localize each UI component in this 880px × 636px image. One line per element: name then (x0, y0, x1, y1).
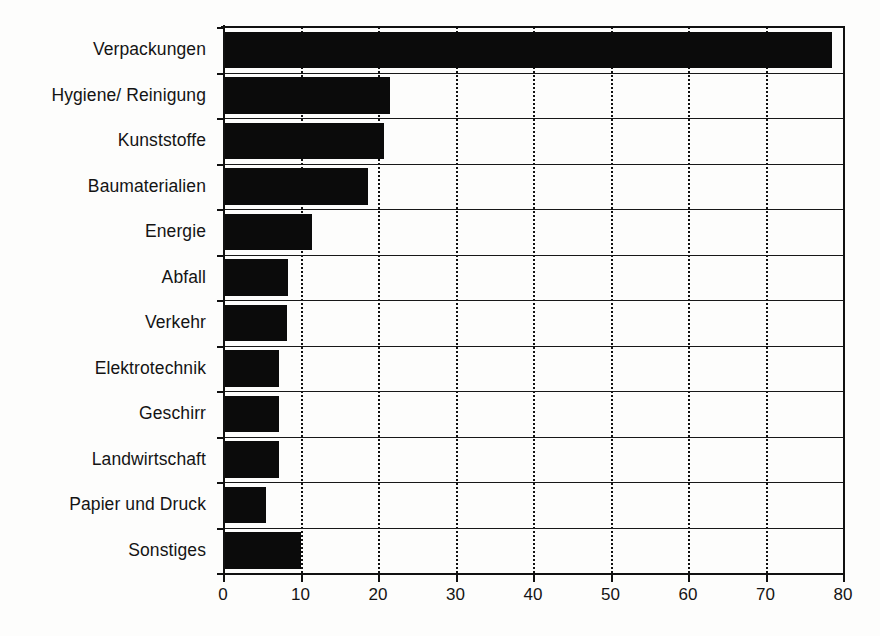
bar-geschirr (224, 396, 279, 433)
bar-kunststoffe (224, 123, 384, 160)
separator-line (223, 255, 843, 256)
category-axis-labels: Verpackungen Hygiene/ Reinigung Kunststo… (0, 27, 215, 573)
y-axis-tick (217, 255, 225, 257)
separator-line (223, 164, 843, 165)
bar-elektrotechnik (224, 350, 279, 387)
x-axis-tick-70 (766, 573, 768, 582)
x-axis-tick-80 (843, 573, 845, 582)
x-axis-tick-30 (456, 573, 458, 582)
plot-area (223, 27, 843, 573)
separator-line (223, 209, 843, 210)
y-axis-tick (217, 27, 225, 29)
separator-line (223, 346, 843, 347)
x-axis-tick-0 (223, 573, 225, 582)
category-label-geschirr: Geschirr (0, 405, 206, 423)
bar-verkehr (224, 305, 287, 342)
bar-abfall (224, 259, 288, 296)
y-axis-tick (217, 118, 225, 120)
category-label-landwirtschaft: Landwirtschaft (0, 451, 206, 469)
y-axis-tick (217, 73, 225, 75)
plot-top-border (221, 26, 845, 28)
x-axis-tick-label-70: 70 (756, 586, 775, 603)
x-axis-tick-40 (533, 573, 535, 582)
bar-chart: Verpackungen Hygiene/ Reinigung Kunststo… (0, 0, 880, 636)
y-axis-tick (217, 209, 225, 211)
x-axis-tick-label-80: 80 (834, 586, 853, 603)
y-axis-tick (217, 346, 225, 348)
separator-line (223, 118, 843, 119)
category-label-abfall: Abfall (0, 269, 206, 287)
category-label-verpackungen: Verpackungen (0, 41, 206, 59)
x-axis-tick-60 (688, 573, 690, 582)
bar-verpackungen (224, 32, 832, 69)
y-axis-tick (217, 528, 225, 530)
plot-right-border (843, 26, 845, 574)
category-label-elektrotechnik: Elektrotechnik (0, 360, 206, 378)
y-axis-tick (217, 164, 225, 166)
x-axis-tick-label-10: 10 (291, 586, 310, 603)
separator-line (223, 391, 843, 392)
x-axis-tick-label-50: 50 (601, 586, 620, 603)
x-axis-tick-50 (611, 573, 613, 582)
x-axis-tick-label-60: 60 (679, 586, 698, 603)
category-label-kunststoffe: Kunststoffe (0, 132, 206, 150)
bar-hygiene-reinigung (224, 77, 390, 114)
separator-line (223, 482, 843, 483)
x-axis-tick-label-0: 0 (218, 586, 227, 603)
x-axis-tick-label-20: 20 (369, 586, 388, 603)
category-label-sonstiges: Sonstiges (0, 542, 206, 560)
x-axis-tick-20 (378, 573, 380, 582)
separator-line (223, 300, 843, 301)
separator-line (223, 73, 843, 74)
y-axis-tick (217, 482, 225, 484)
bar-energie (224, 214, 312, 251)
bar-baumaterialien (224, 168, 368, 205)
x-axis-tick-label-40: 40 (524, 586, 543, 603)
bar-landwirtschaft (224, 441, 279, 478)
category-label-hygiene-reinigung: Hygiene/ Reinigung (0, 87, 206, 105)
category-label-baumaterialien: Baumaterialien (0, 178, 206, 196)
y-axis-line (223, 25, 225, 575)
y-axis-tick (217, 391, 225, 393)
x-axis-tick-10 (301, 573, 303, 582)
separator-line (223, 528, 843, 529)
x-axis-tick-label-30: 30 (446, 586, 465, 603)
y-axis-tick (217, 437, 225, 439)
bar-papier-und-druck (224, 487, 266, 524)
y-axis-tick (217, 300, 225, 302)
category-label-energie: Energie (0, 223, 206, 241)
category-label-verkehr: Verkehr (0, 314, 206, 332)
separator-line (223, 437, 843, 438)
bar-sonstiges (224, 532, 301, 569)
category-label-papier-und-druck: Papier und Druck (0, 496, 206, 514)
